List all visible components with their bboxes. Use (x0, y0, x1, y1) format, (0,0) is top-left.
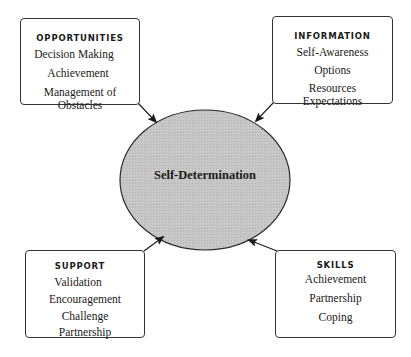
node-item: Coping (276, 311, 395, 325)
node-item: Challenge (26, 310, 144, 324)
node-information: INFORMATION Self-Awareness Options Resou… (272, 16, 393, 104)
edge-information-arrow (256, 102, 274, 121)
node-skills: SKILLS Achievement Partnership Coping (275, 250, 396, 338)
center-node-label: Self-Determination (120, 168, 290, 183)
node-item: Partnership (276, 292, 395, 306)
node-title: SKILLS (276, 260, 395, 270)
edge-support-arrow (144, 237, 163, 251)
edge-skills-arrow (249, 240, 277, 251)
node-item: Management of Obstacles (21, 86, 139, 114)
node-item: Decision Making (9, 48, 139, 62)
node-opportunities: OPPORTUNITIES Decision Making Achievemen… (20, 18, 140, 105)
node-item: Self-Awareness (273, 46, 392, 60)
node-item: Achievement (276, 273, 395, 287)
node-item: Resources (273, 82, 392, 96)
node-item: Achievement (17, 67, 139, 81)
node-item: Partnership (26, 326, 144, 340)
node-item: Encouragement (26, 293, 144, 307)
node-item: Expectations (273, 95, 392, 109)
edge-opportunities-arrow (138, 103, 156, 122)
node-item: Validation (12, 276, 144, 290)
node-item: Options (273, 64, 392, 78)
node-title: SUPPORT (16, 261, 144, 271)
node-support: SUPPORT Validation Encouragement Challen… (25, 250, 145, 338)
node-title: INFORMATION (273, 31, 392, 41)
node-title: OPPORTUNITIES (21, 33, 139, 43)
